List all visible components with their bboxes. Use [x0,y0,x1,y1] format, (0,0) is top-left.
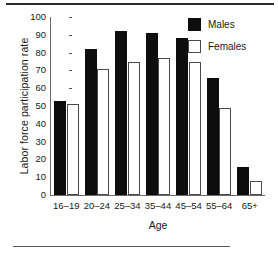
y-axis-tick-label: 100 [30,12,46,22]
bar-group [146,17,171,195]
y-axis-tick-labels: 0102030405060708090100 [22,17,46,195]
legend-swatch-males-icon [188,18,201,31]
x-axis-tick-label: 45–54 [173,200,204,211]
y-axis-tick-label: 90 [35,30,46,40]
bar-female [158,58,170,195]
y-axis-tick-label: 10 [35,172,46,182]
x-axis-title: Age [51,219,265,231]
y-axis-tick-label: 20 [35,155,46,165]
bar-male [207,78,219,195]
bar-female [67,104,79,195]
bar-chart: Labor force participation rate 010203040… [0,0,278,254]
bar-group [115,17,140,195]
bar-male [85,49,97,195]
legend-label-females: Females [208,41,246,52]
y-axis-tick-label: 0 [41,190,46,200]
x-axis-tick-label: 20–24 [82,200,113,211]
bar-female [250,181,262,195]
bar-female [128,62,140,196]
y-axis-tick-label: 70 [35,66,46,76]
bar-male [176,38,188,195]
x-axis-line [50,195,265,196]
bar-group [54,17,79,195]
y-axis-tick-label: 60 [35,83,46,93]
bar-male [146,33,158,195]
y-axis-tick-label: 80 [35,48,46,58]
legend-label-males: Males [208,19,235,30]
bar-group [85,17,110,195]
legend-item-males: Males [188,18,274,31]
bar-male [115,31,127,195]
x-axis-tick-label: 35–44 [143,200,174,211]
x-axis-tick-label: 16–19 [51,200,82,211]
legend-swatch-females-icon [188,40,201,53]
legend: Males Females [188,18,274,62]
figure: Labor force participation rate 010203040… [0,0,278,254]
y-axis-tick-label: 40 [35,119,46,129]
bar-male [237,167,249,195]
bar-female [97,69,109,195]
y-axis-tick-label: 50 [35,101,46,111]
bar-male [54,101,66,195]
x-axis-tick-label: 25–34 [112,200,143,211]
y-axis-tick-label: 30 [35,137,46,147]
legend-item-females: Females [188,40,274,53]
bar-female [219,108,231,195]
x-axis-tick-labels: 16–1920–2425–3435–4445–5455–6465+ [51,200,265,216]
x-axis-tick-label: 65+ [234,200,265,211]
bar-female [189,62,201,196]
x-axis-tick-label: 55–64 [204,200,235,211]
